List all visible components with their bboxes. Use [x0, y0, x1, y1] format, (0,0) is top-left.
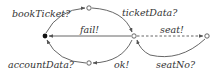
label-ticketdata: ticketData? [122, 7, 178, 18]
state-diagram: bookTicket? ticketData? fail! seat! seat… [0, 0, 220, 71]
edge-seatno [137, 39, 205, 57]
label-bookticket: bookTicket? [12, 8, 71, 19]
start-node [43, 34, 48, 39]
state-node-top [87, 6, 91, 10]
state-node-bottom [87, 61, 91, 65]
state-node-center [132, 34, 136, 38]
label-seatno: seatNo? [156, 59, 196, 70]
label-fail: fail! [79, 24, 99, 35]
state-node-right [205, 34, 209, 38]
label-accountdata: accountData? [8, 59, 75, 70]
label-ok: ok! [114, 59, 129, 70]
label-seat: seat! [160, 24, 184, 35]
